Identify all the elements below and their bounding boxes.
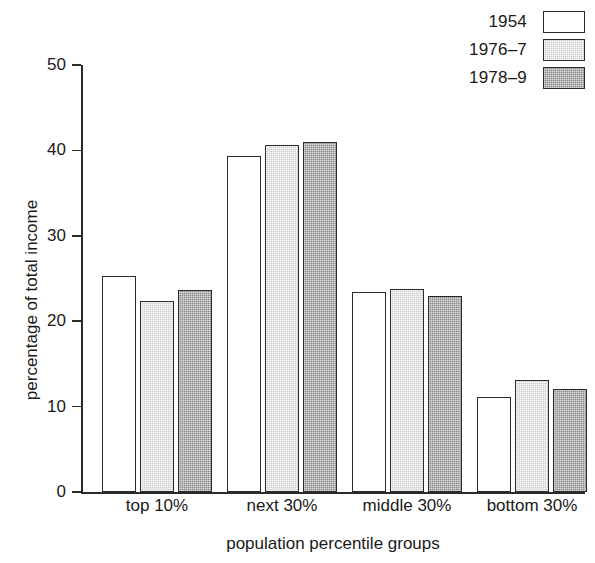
bar-1976-7-bottom-30- bbox=[515, 380, 549, 492]
y-axis-tick-label: 40 bbox=[47, 140, 66, 160]
y-axis-tick-label: 0 bbox=[57, 482, 66, 502]
y-axis-tick: 30 bbox=[72, 235, 81, 237]
y-axis-tick-label: 50 bbox=[47, 55, 66, 75]
legend-item-1954: 1954 bbox=[395, 8, 585, 36]
bar-1976-7-middle-30- bbox=[390, 289, 424, 492]
y-axis-tick: 10 bbox=[72, 406, 81, 408]
bar-1978-9-next-30- bbox=[303, 142, 337, 492]
legend-swatch-1954 bbox=[543, 11, 585, 33]
y-axis-tick-label: 30 bbox=[47, 226, 66, 246]
x-axis-group-label: top 10% bbox=[126, 496, 188, 516]
x-axis-line bbox=[81, 492, 585, 494]
bar-1976-7-next-30- bbox=[265, 145, 299, 492]
y-axis-line bbox=[81, 65, 83, 492]
legend-label-1976-7: 1976–7 bbox=[469, 40, 527, 60]
bar-chart-figure: 1954 1976–7 1978–9 01020304050top 10%nex… bbox=[0, 0, 595, 563]
y-axis-tick: 0 bbox=[72, 491, 81, 493]
bar-1954-next-30- bbox=[227, 156, 261, 492]
legend-item-1976-7: 1976–7 bbox=[395, 36, 585, 64]
legend-swatch-1976-7 bbox=[543, 39, 585, 61]
bar-1954-top-10- bbox=[102, 276, 136, 492]
y-axis-tick: 20 bbox=[72, 320, 81, 322]
x-axis-group-label: bottom 30% bbox=[487, 496, 578, 516]
x-axis-group-label: next 30% bbox=[247, 496, 318, 516]
bar-1976-7-top-10- bbox=[140, 301, 174, 492]
bar-1978-9-middle-30- bbox=[428, 296, 462, 492]
bar-1954-bottom-30- bbox=[477, 397, 511, 492]
y-axis-tick-label: 20 bbox=[47, 311, 66, 331]
y-axis-tick-label: 10 bbox=[47, 397, 66, 417]
bar-1978-9-top-10- bbox=[178, 290, 212, 492]
legend-label-1954: 1954 bbox=[488, 12, 527, 32]
bar-1954-middle-30- bbox=[352, 292, 386, 492]
y-axis-tick: 40 bbox=[72, 150, 81, 152]
x-axis-group-label: middle 30% bbox=[363, 496, 452, 516]
y-axis-tick: 50 bbox=[72, 64, 81, 66]
y-axis-title: percentage of total income bbox=[22, 150, 42, 450]
plot-area: 01020304050top 10%next 30%middle 30%bott… bbox=[81, 65, 585, 492]
bar-1978-9-bottom-30- bbox=[553, 389, 587, 492]
x-axis-title: population percentile groups bbox=[81, 534, 585, 554]
